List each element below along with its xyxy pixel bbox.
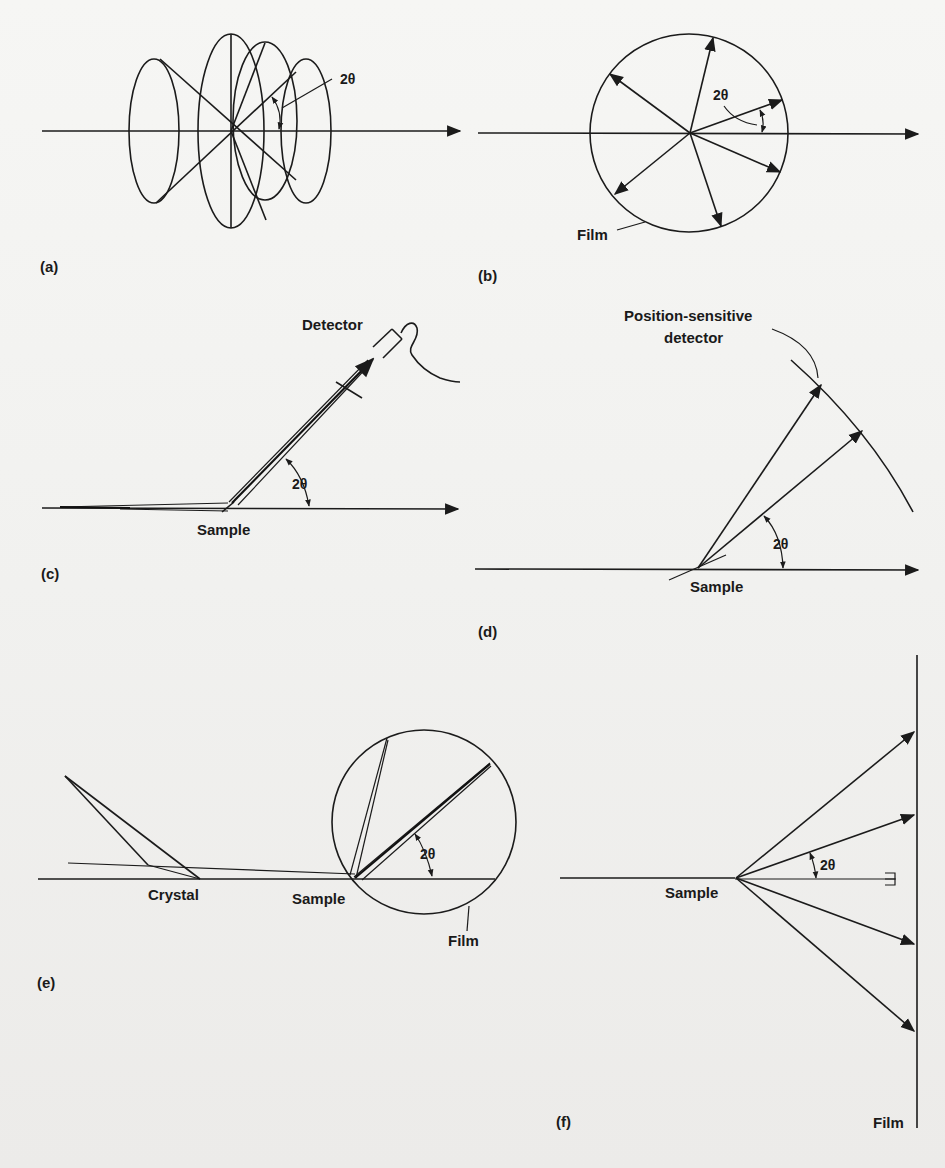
diffracted-ray-5 — [690, 133, 721, 226]
panel-e: 2θ Film Crystal Sample (e) — [37, 730, 516, 991]
crystal-ray-inner — [65, 776, 148, 865]
sample-label: Sample — [292, 890, 345, 907]
panel-f: 2θ Sample Film (f) — [556, 655, 917, 1131]
film-leader-line — [617, 222, 645, 230]
detector-label: Detector — [302, 316, 363, 333]
angle-label-2theta: 2θ — [773, 536, 788, 552]
crystal-label: Crystal — [148, 886, 199, 903]
diffracted-ray-3 — [736, 878, 914, 944]
incident-ray-2 — [120, 509, 228, 511]
angle-label-2theta: 2θ — [713, 87, 728, 103]
incident-beam-axis — [478, 133, 918, 134]
focused-ray — [68, 863, 355, 874]
diffracted-ray-4 — [736, 878, 914, 1031]
incident-ray-bundle — [60, 507, 130, 508]
diffracted-ray-4 — [690, 133, 780, 172]
panel-d: 2θ Position-sensitive detector Sample (d… — [475, 307, 918, 640]
sample-label: Sample — [197, 521, 250, 538]
beam-stop-icon — [885, 873, 895, 885]
film-label: Film — [873, 1114, 904, 1131]
psd-label-line1: Position-sensitive — [624, 307, 752, 324]
diffracted-ray-2 — [610, 74, 690, 133]
panel-label-f: (f) — [556, 1113, 571, 1130]
diffracted-ray-1 — [698, 385, 821, 568]
detector-icon — [373, 323, 460, 382]
film-label: Film — [448, 932, 479, 949]
panel-label-b: (b) — [478, 267, 497, 284]
beam-axis — [475, 569, 918, 570]
panel-label-d: (d) — [478, 623, 497, 640]
angle-arc-icon — [810, 853, 816, 878]
panel-label-e: (e) — [37, 974, 55, 991]
angle-label-2theta: 2θ — [340, 71, 355, 87]
panel-label-c: (c) — [41, 565, 59, 582]
psd-label-line2: detector — [664, 329, 723, 346]
sample-label: Sample — [665, 884, 718, 901]
diffracted-ray-1b — [356, 740, 388, 878]
panel-a: 2θ (a) — [40, 34, 460, 275]
sample-label: Sample — [690, 578, 743, 595]
angle-leader-line — [282, 79, 332, 108]
film-leader-line — [467, 906, 469, 931]
angle-arc-icon — [760, 110, 763, 132]
diffraction-geometry-figure: 2θ (a) 2θ Film (b) — [0, 0, 945, 1168]
diffracted-ray-3 — [690, 100, 782, 133]
panel-c: Detector 2θ Sample (c) — [41, 316, 460, 582]
psd-leader-line — [772, 329, 818, 378]
panel-b: 2θ Film (b) — [478, 34, 918, 284]
angle-label-2theta: 2θ — [820, 857, 835, 873]
cone-generator-2 — [156, 72, 296, 203]
diffracted-ray-6 — [615, 133, 690, 194]
diffracted-ray-1 — [690, 38, 713, 133]
angle-arc-icon — [272, 97, 280, 129]
detector-cable — [401, 323, 460, 382]
angle-label-2theta: 2θ — [420, 846, 435, 862]
film-circle — [332, 730, 516, 914]
position-sensitive-detector-arc — [791, 360, 913, 512]
cone-generator-1 — [160, 59, 296, 180]
angle-label-2theta: 2θ — [292, 476, 307, 492]
diffracted-ray-2b — [362, 766, 491, 880]
panel-label-a: (a) — [40, 258, 58, 275]
film-label: Film — [577, 226, 608, 243]
